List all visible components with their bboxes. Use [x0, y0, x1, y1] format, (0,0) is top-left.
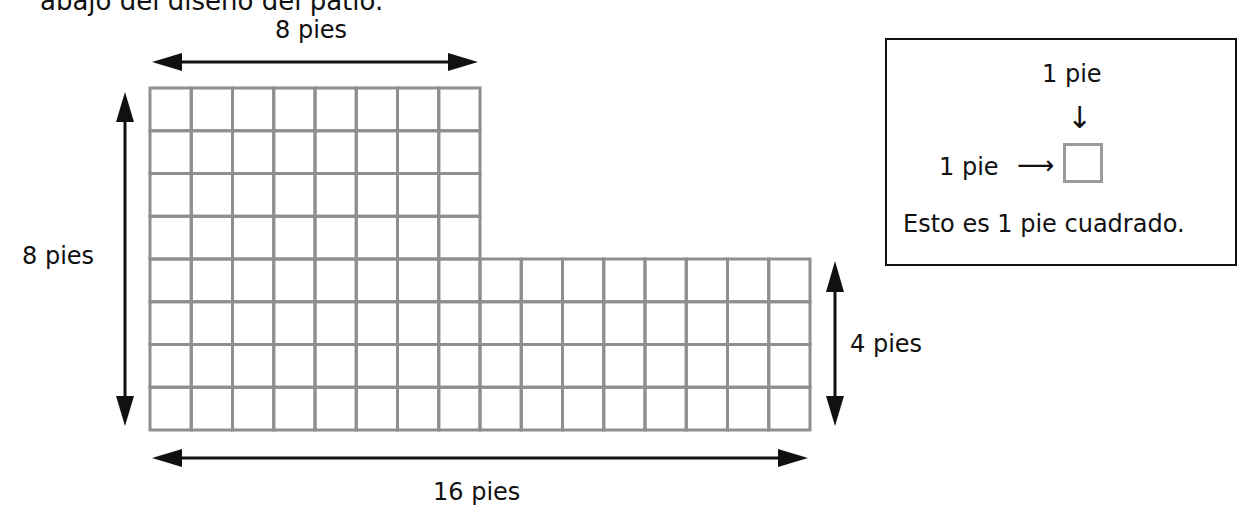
grid-cell — [769, 302, 810, 345]
grid-cell — [521, 345, 562, 388]
grid-cell — [769, 345, 810, 388]
grid-cell — [233, 216, 274, 259]
grid-cell — [191, 387, 232, 430]
grid-cell — [480, 345, 521, 388]
grid-cell — [604, 387, 645, 430]
right-arrow-icon: ⟶ — [1017, 150, 1054, 180]
grid-cell — [645, 387, 686, 430]
grid-cell — [563, 387, 604, 430]
grid-cell — [356, 216, 397, 259]
grid-cell — [563, 259, 604, 302]
grid-cell — [191, 174, 232, 217]
grid-cell — [521, 302, 562, 345]
grid-cell — [150, 131, 191, 174]
grid-cell — [356, 131, 397, 174]
grid-cell — [356, 259, 397, 302]
grid-cell — [728, 345, 769, 388]
grid-cell — [150, 216, 191, 259]
grid-cell — [274, 302, 315, 345]
bottom-width-arrow — [152, 449, 808, 467]
grid-cell — [521, 259, 562, 302]
grid-cell — [398, 131, 439, 174]
grid-cell — [150, 387, 191, 430]
grid-cell — [233, 174, 274, 217]
grid-cell — [398, 302, 439, 345]
grid-cell — [645, 345, 686, 388]
grid-cell — [728, 259, 769, 302]
grid-cell — [521, 387, 562, 430]
grid-cell — [274, 131, 315, 174]
grid-cell — [233, 88, 274, 131]
grid-cell — [769, 259, 810, 302]
grid-cell — [233, 259, 274, 302]
legend-top-label: 1 pie — [1042, 60, 1102, 88]
grid-cell — [398, 88, 439, 131]
grid-cell — [645, 302, 686, 345]
grid-cell — [398, 174, 439, 217]
top-width-arrow — [152, 53, 478, 71]
left-height-arrow — [116, 92, 134, 426]
grid-cell — [233, 345, 274, 388]
grid-cell — [191, 131, 232, 174]
grid-cell — [191, 88, 232, 131]
right-height-arrow — [826, 261, 844, 426]
grid-cell — [315, 302, 356, 345]
legend-side-label: 1 pie — [939, 153, 999, 181]
unit-square-legend: 1 pie ↓ 1 pie ⟶ Esto es 1 pie cuadrado. — [885, 38, 1237, 266]
grid-cell — [439, 88, 480, 131]
grid-cell — [150, 259, 191, 302]
grid-cell — [686, 302, 727, 345]
grid-cell — [769, 387, 810, 430]
grid-cell — [274, 216, 315, 259]
grid-cell — [439, 174, 480, 217]
grid-cell — [728, 302, 769, 345]
grid-cell — [480, 302, 521, 345]
grid-cell — [191, 345, 232, 388]
grid-cell — [563, 302, 604, 345]
grid-cell — [315, 131, 356, 174]
bottom-width-label: 16 pies — [433, 478, 520, 506]
grid-cell — [233, 387, 274, 430]
grid-cell — [356, 174, 397, 217]
grid-cell — [191, 259, 232, 302]
grid-cell — [439, 216, 480, 259]
grid-cell — [315, 216, 356, 259]
grid-cell — [398, 216, 439, 259]
grid-cell — [315, 259, 356, 302]
grid-cell — [480, 387, 521, 430]
grid-cell — [315, 88, 356, 131]
grid-cell — [439, 302, 480, 345]
grid-cell — [686, 345, 727, 388]
grid-cell — [274, 387, 315, 430]
left-height-label: 8 pies — [22, 242, 94, 270]
grid-cell — [315, 387, 356, 430]
grid-cell — [439, 259, 480, 302]
grid-cell — [645, 259, 686, 302]
grid-cell — [356, 302, 397, 345]
grid-cell — [439, 131, 480, 174]
grid-cell — [233, 302, 274, 345]
grid-cell — [356, 387, 397, 430]
unit-square — [1063, 143, 1103, 183]
grid-cell — [686, 387, 727, 430]
grid-cell — [356, 88, 397, 131]
grid-cell — [604, 345, 645, 388]
grid-cell — [150, 88, 191, 131]
grid-cell — [274, 345, 315, 388]
top-width-label: 8 pies — [275, 16, 347, 44]
grid-cell — [480, 259, 521, 302]
grid-cell — [191, 216, 232, 259]
grid-cell — [150, 345, 191, 388]
grid-cell — [439, 345, 480, 388]
grid-cell — [686, 259, 727, 302]
grid-cell — [274, 259, 315, 302]
grid-cell — [274, 88, 315, 131]
grid-cell — [150, 302, 191, 345]
right-height-label: 4 pies — [850, 330, 922, 358]
grid-cell — [398, 259, 439, 302]
grid-cell — [315, 345, 356, 388]
grid-cell — [439, 387, 480, 430]
legend-caption: Esto es 1 pie cuadrado. — [903, 210, 1185, 238]
patio-grid — [150, 88, 810, 430]
grid-cell — [191, 302, 232, 345]
